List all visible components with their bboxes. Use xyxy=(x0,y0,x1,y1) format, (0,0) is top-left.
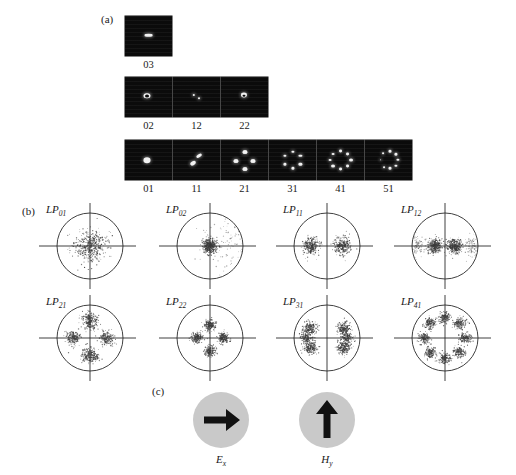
near-field-mode-22: 22 xyxy=(221,77,268,132)
lp-mode-symbol: LP xyxy=(401,203,414,215)
lp-mode-indices: 11 xyxy=(296,209,303,218)
mode-lobe xyxy=(396,159,399,161)
mode-intensity-image-22 xyxy=(221,77,268,117)
mode-intensity-image-03 xyxy=(125,16,172,56)
mode-lobe xyxy=(189,160,196,166)
mode-label-22: 22 xyxy=(221,119,268,132)
lp-mode-symbol: LP xyxy=(166,203,179,215)
polar-plot-label-LP12: LP12 xyxy=(401,203,421,218)
lp-mode-indices: 21 xyxy=(59,301,67,310)
mode-lobe xyxy=(198,97,200,99)
mode-intensity-image-12 xyxy=(173,77,220,117)
mode-label-51: 51 xyxy=(365,182,412,195)
mode-lobe xyxy=(383,166,385,167)
field-axis-subscript: y xyxy=(329,459,332,468)
mode-lobe xyxy=(144,34,153,36)
lp-mode-symbol: LP xyxy=(401,295,414,307)
mode-lobe xyxy=(394,164,397,166)
lp-mode-indices: 41 xyxy=(414,301,422,310)
mode-label-03: 03 xyxy=(125,58,172,71)
lp-mode-symbol: LP xyxy=(283,203,296,215)
fiber-cross-section-disk xyxy=(193,392,249,448)
mode-intensity-image-02 xyxy=(125,77,172,117)
field-orientation-Hy: Hy xyxy=(290,392,364,468)
lp-mode-symbol: LP xyxy=(46,203,59,215)
mode-intensity-image-41 xyxy=(317,140,364,180)
mode-intensity-image-21 xyxy=(221,140,268,180)
field-label-Hy: Hy xyxy=(290,453,364,468)
mode-intensity-image-51 xyxy=(365,140,412,180)
arrow-right-icon xyxy=(204,409,240,431)
lp-mode-indices: 01 xyxy=(59,209,67,218)
mode-lobe xyxy=(389,150,392,152)
mode-lobe xyxy=(346,152,350,155)
mode-lobe xyxy=(332,152,335,154)
mode-lobe xyxy=(349,158,353,161)
panel-a-tag: (a) xyxy=(101,13,113,25)
polar-plot-label-LP01: LP01 xyxy=(46,203,66,218)
mode-lobe xyxy=(299,163,302,165)
mode-lobe xyxy=(196,153,203,159)
polar-plot-label-LP02: LP02 xyxy=(166,203,186,218)
near-field-mode-21: 21 xyxy=(221,140,268,195)
polar-plot-label-LP11: LP11 xyxy=(283,203,303,218)
mode-label-02: 02 xyxy=(125,119,172,132)
lp-mode-indices: 31 xyxy=(296,301,304,310)
mode-intensity-image-11 xyxy=(173,140,220,180)
near-field-mode-31: 31 xyxy=(269,140,316,195)
mode-lobe xyxy=(144,157,151,163)
polar-plot-label-LP41: LP41 xyxy=(401,295,421,310)
mode-label-01: 01 xyxy=(125,182,172,195)
lp-mode-indices: 02 xyxy=(179,209,187,218)
mode-lobe xyxy=(291,151,294,153)
near-field-mode-11: 11 xyxy=(173,140,220,195)
mode-lobe xyxy=(242,150,247,154)
mode-lobe xyxy=(382,152,384,153)
mode-lobe xyxy=(283,155,286,157)
mode-lobe xyxy=(329,159,332,161)
near-field-mode-03: 03 xyxy=(125,16,172,71)
field-orientation-Ex: Ex xyxy=(184,392,258,468)
mode-lobe xyxy=(389,167,392,169)
field-axis-subscript: x xyxy=(223,459,226,468)
mode-lobe xyxy=(251,159,256,163)
mode-lobe xyxy=(192,94,194,96)
mode-label-11: 11 xyxy=(173,182,220,195)
polar-plot-label-LP31: LP31 xyxy=(283,295,303,310)
lp-mode-symbol: LP xyxy=(283,295,296,307)
mode-lobe xyxy=(233,159,238,163)
panel-c-tag: (c) xyxy=(152,385,164,397)
mode-intensity-image-31 xyxy=(269,140,316,180)
field-symbol: E xyxy=(216,453,223,465)
mode-lobe xyxy=(339,167,343,170)
mode-lobe xyxy=(394,153,397,155)
fiber-cross-section-disk xyxy=(299,392,355,448)
lp-mode-indices: 22 xyxy=(179,301,187,310)
near-field-mode-51: 51 xyxy=(365,140,412,195)
lp-mode-symbol: LP xyxy=(166,295,179,307)
arrow-up-icon xyxy=(316,400,338,438)
mode-intensity-image-01 xyxy=(125,140,172,180)
mode-lobe xyxy=(283,163,286,165)
mode-lobe xyxy=(346,165,350,168)
mode-label-21: 21 xyxy=(221,182,268,195)
mode-lobe xyxy=(380,159,382,160)
mode-label-41: 41 xyxy=(317,182,364,195)
near-field-mode-02: 02 xyxy=(125,77,172,132)
lp-mode-indices: 12 xyxy=(414,209,422,218)
mode-label-12: 12 xyxy=(173,119,220,132)
near-field-mode-41: 41 xyxy=(317,140,364,195)
panel-b-tag: (b) xyxy=(22,205,35,217)
lp-mode-symbol: LP xyxy=(46,295,59,307)
near-field-mode-12: 12 xyxy=(173,77,220,132)
mode-lobe xyxy=(299,155,302,157)
mode-lobe xyxy=(339,150,343,153)
mode-lobe xyxy=(331,165,335,168)
mode-lobe xyxy=(291,167,294,169)
polar-plot-label-LP22: LP22 xyxy=(166,295,186,310)
field-label-Ex: Ex xyxy=(184,453,258,468)
mode-lobe xyxy=(242,167,247,171)
mode-label-31: 31 xyxy=(269,182,316,195)
near-field-mode-01: 01 xyxy=(125,140,172,195)
polar-plot-label-LP21: LP21 xyxy=(46,295,66,310)
